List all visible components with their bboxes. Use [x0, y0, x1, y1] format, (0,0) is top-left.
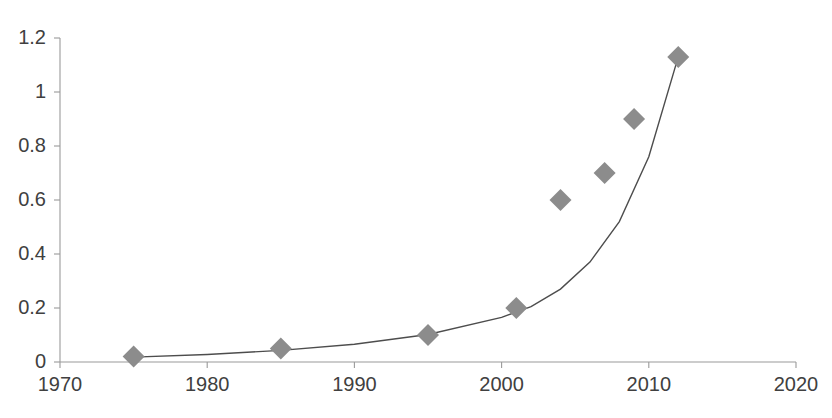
x-tick-label: 2000 [479, 373, 524, 395]
chart-plot-area: 00.20.40.60.811.2 1970198019902000201020… [0, 0, 832, 418]
x-tick-label: 2010 [627, 373, 672, 395]
data-point-marker [623, 108, 645, 130]
data-point-marker [417, 324, 439, 346]
y-tick-label: 0 [35, 350, 46, 372]
y-tick-label: 0.8 [18, 134, 46, 156]
chart-container: 00.20.40.60.811.2 1970198019902000201020… [0, 0, 832, 418]
y-tick-label: 0.6 [18, 188, 46, 210]
y-axis-group: 00.20.40.60.811.2 [18, 26, 60, 372]
fit-curve-group [134, 57, 679, 357]
x-tick-label: 1970 [38, 373, 83, 395]
y-tick-label: 0.4 [18, 242, 46, 264]
data-point-marker [123, 346, 145, 368]
y-axis-ticks: 00.20.40.60.811.2 [18, 26, 60, 372]
data-point-marker [667, 46, 689, 68]
x-axis-group: 197019801990200020102020 [38, 362, 819, 395]
x-axis-ticks: 197019801990200020102020 [38, 362, 819, 395]
data-point-markers [123, 46, 690, 368]
data-point-marker [594, 162, 616, 184]
x-tick-label: 2020 [774, 373, 819, 395]
x-tick-label: 1980 [185, 373, 230, 395]
y-tick-label: 1 [35, 80, 46, 102]
data-point-marker [270, 338, 292, 360]
y-tick-label: 1.2 [18, 26, 46, 48]
y-tick-label: 0.2 [18, 296, 46, 318]
data-point-marker [549, 189, 571, 211]
x-tick-label: 1990 [332, 373, 377, 395]
exponential-fit-curve [134, 57, 679, 357]
data-point-marker [505, 297, 527, 319]
